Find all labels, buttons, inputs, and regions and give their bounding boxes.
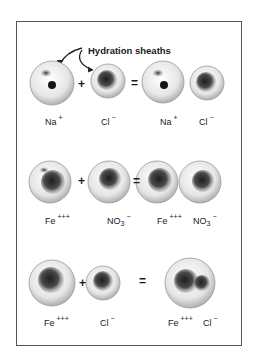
row-2-no3-sheath: [88, 161, 130, 203]
row-1-na-sheath: [30, 61, 74, 105]
row-3-cl-sheath: [86, 266, 120, 300]
row-3-reactant-1-label: Fe+++: [44, 319, 69, 328]
row-2-fe-sheath: [29, 161, 71, 203]
row-3-fe-sheath: [29, 260, 75, 306]
row-1-cl-sheath: [91, 64, 125, 98]
hydration-sheaths-caption: Hydration sheaths: [88, 45, 171, 56]
row-1-cl-product: [190, 66, 224, 100]
row-3-product-1-label: Fe+++: [168, 319, 193, 328]
row-1-product-2-label: Cl−: [199, 118, 214, 127]
row-2-plus: +: [78, 175, 85, 187]
arrow-to-na-sheath: [60, 48, 82, 64]
row-3-product-2-label: Cl−: [203, 319, 218, 328]
row-2-reactant-2-label: NO3−: [107, 217, 131, 226]
row-2-product-2-label: NO3−: [193, 217, 217, 226]
row-3-fecl-product: [165, 258, 215, 308]
row-1-plus: +: [78, 78, 85, 90]
row-2-fe-product: [136, 161, 178, 203]
row-2-no3-product: [179, 161, 221, 203]
row-1-reactant-1-label: Na+: [45, 118, 63, 127]
row-1-equals: =: [131, 77, 138, 89]
row-1-na-product: [142, 61, 184, 103]
row-2-product-1-label: Fe+++: [157, 217, 182, 226]
row-3-reactant-2-label: Cl−: [100, 319, 115, 328]
row-1-product-1-label: Na+: [160, 118, 178, 127]
row-1-reactant-2-label: Cl−: [101, 118, 116, 127]
row-2-equals: =: [133, 175, 140, 187]
row-2-reactant-1-label: Fe+++: [45, 217, 70, 226]
row-3-equals: =: [139, 275, 146, 287]
row-3-plus: +: [79, 277, 86, 289]
